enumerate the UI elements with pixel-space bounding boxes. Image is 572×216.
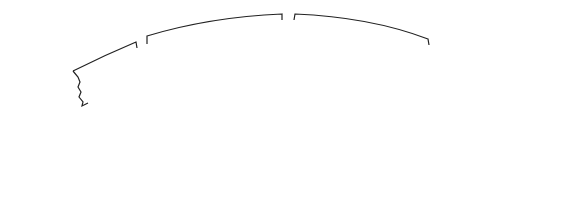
break-line-left: [73, 71, 88, 106]
arc-center-left-segment: [147, 14, 282, 44]
arc-left-segment: [73, 42, 137, 71]
rotor-periphery: [73, 14, 438, 106]
arc-center-right-segment: [294, 14, 429, 45]
rotor-diagram: [0, 0, 572, 216]
